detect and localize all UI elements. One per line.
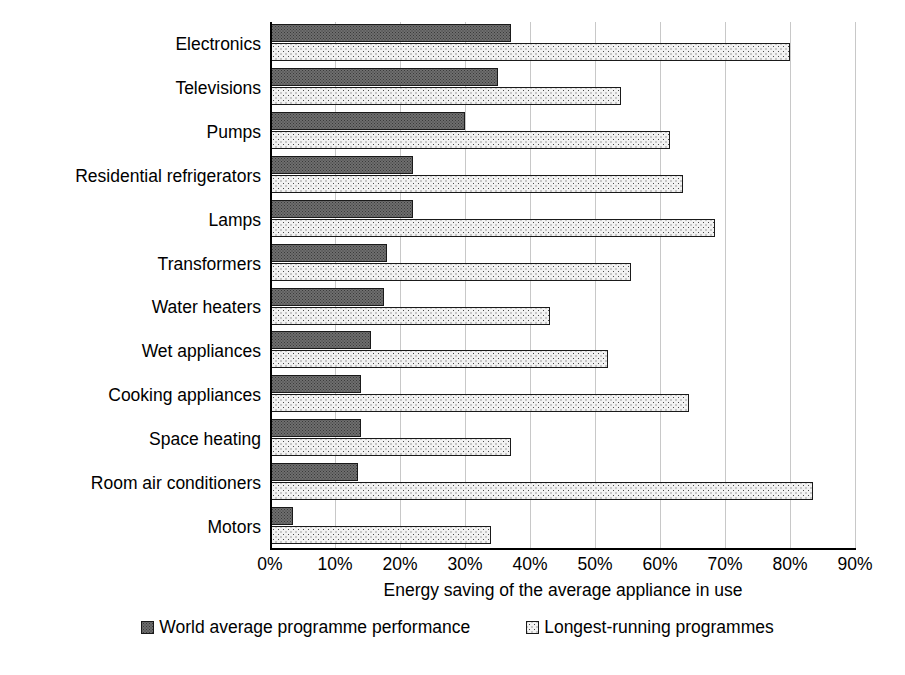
bar-world-average <box>270 112 465 130</box>
category-label: Water heaters <box>152 297 261 317</box>
category-label: Motors <box>208 517 261 537</box>
category-row: Cooking appliances <box>270 373 855 417</box>
category-row: Residential refrigerators <box>270 154 855 198</box>
legend-item-world-average[interactable]: World average programme performance <box>141 617 470 638</box>
bar-world-average <box>270 24 511 42</box>
bar-longest-running <box>270 263 631 281</box>
x-tick-label: 80% <box>760 554 820 575</box>
category-label: Lamps <box>208 210 261 230</box>
category-row: Space heating <box>270 417 855 461</box>
bar-longest-running <box>270 219 715 237</box>
bar-world-average <box>270 375 361 393</box>
bar-longest-running <box>270 131 670 149</box>
x-axis-title: Energy saving of the average appliance i… <box>270 580 856 601</box>
category-label: Televisions <box>175 78 261 98</box>
category-label: Transformers <box>158 254 261 274</box>
x-tick-label: 20% <box>370 554 430 575</box>
x-tick-label: 70% <box>695 554 755 575</box>
category-row: Transformers <box>270 242 855 286</box>
category-label: Wet appliances <box>142 341 261 361</box>
legend-swatch-icon-dark <box>141 621 154 634</box>
x-tick-label: 10% <box>305 554 365 575</box>
bar-world-average <box>270 200 413 218</box>
bar-longest-running <box>270 307 550 325</box>
x-tick-label: 50% <box>565 554 625 575</box>
category-label: Electronics <box>175 34 261 54</box>
legend-item-longest-running[interactable]: Longest-running programmes <box>526 617 774 638</box>
category-row: Electronics <box>270 22 855 66</box>
category-row: Room air conditioners <box>270 461 855 505</box>
bar-world-average <box>270 288 384 306</box>
category-row: Lamps <box>270 198 855 242</box>
category-label: Residential refrigerators <box>75 166 261 186</box>
x-tick-label: 90% <box>825 554 885 575</box>
y-axis-line <box>270 22 272 550</box>
bar-world-average <box>270 419 361 437</box>
x-tick-label: 40% <box>500 554 560 575</box>
category-label: Space heating <box>149 429 261 449</box>
category-row: Motors <box>270 505 855 549</box>
bar-longest-running <box>270 438 511 456</box>
bar-longest-running <box>270 526 491 544</box>
bar-world-average <box>270 331 371 349</box>
bar-world-average <box>270 463 358 481</box>
bar-longest-running <box>270 87 621 105</box>
x-tick-label: 0% <box>240 554 300 575</box>
category-row: Wet appliances <box>270 329 855 373</box>
x-tick-label: 30% <box>435 554 495 575</box>
legend-label-longest-running: Longest-running programmes <box>544 617 774 638</box>
bar-world-average <box>270 507 293 525</box>
bar-longest-running <box>270 350 608 368</box>
bar-world-average <box>270 156 413 174</box>
bar-longest-running <box>270 175 683 193</box>
bar-chart: ElectronicsTelevisionsPumpsResidential r… <box>0 0 905 675</box>
bar-world-average <box>270 244 387 262</box>
chart-legend: World average programme performance Long… <box>0 617 905 638</box>
category-label: Pumps <box>207 122 261 142</box>
category-row: Televisions <box>270 66 855 110</box>
category-label: Room air conditioners <box>91 473 261 493</box>
x-axis-line <box>270 548 856 550</box>
legend-label-world-average: World average programme performance <box>159 617 470 638</box>
category-row: Pumps <box>270 110 855 154</box>
bar-longest-running <box>270 394 689 412</box>
bar-world-average <box>270 68 498 86</box>
plot-area: ElectronicsTelevisionsPumpsResidential r… <box>270 22 855 549</box>
category-label: Cooking appliances <box>108 385 261 405</box>
category-row: Water heaters <box>270 286 855 330</box>
x-tick-label: 60% <box>630 554 690 575</box>
bar-longest-running <box>270 482 813 500</box>
gridline-90 <box>855 22 856 549</box>
bar-longest-running <box>270 43 790 61</box>
legend-swatch-icon-light <box>526 621 539 634</box>
